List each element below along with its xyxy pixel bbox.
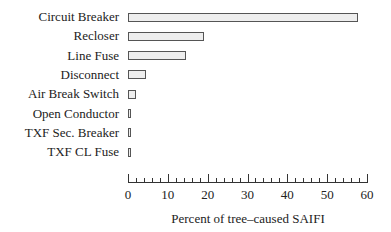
minor-tick — [271, 178, 272, 183]
minor-tick — [184, 178, 185, 183]
bar — [128, 90, 136, 99]
minor-tick — [295, 178, 296, 183]
minor-tick — [263, 178, 264, 183]
x-tick-label: 50 — [321, 187, 334, 203]
minor-tick — [359, 178, 360, 183]
category-label: Air Break Switch — [28, 86, 119, 102]
category-label: Disconnect — [61, 67, 119, 83]
minor-tick — [240, 178, 241, 183]
bar — [128, 51, 186, 60]
minor-tick — [200, 178, 201, 183]
minor-tick — [160, 178, 161, 183]
bar — [128, 109, 131, 118]
major-tick — [128, 174, 129, 183]
x-tick-label: 40 — [281, 187, 294, 203]
x-tick-label: 0 — [125, 187, 132, 203]
x-tick-label: 30 — [241, 187, 254, 203]
minor-tick — [319, 178, 320, 183]
bar — [128, 148, 131, 157]
category-label: Line Fuse — [67, 48, 119, 64]
category-label: Circuit Breaker — [39, 9, 120, 25]
major-tick — [248, 174, 249, 183]
bar — [128, 70, 146, 79]
major-tick — [168, 174, 169, 183]
minor-tick — [216, 178, 217, 183]
minor-tick — [144, 178, 145, 183]
minor-tick — [176, 178, 177, 183]
minor-tick — [224, 178, 225, 183]
category-label: TXF Sec. Breaker — [25, 125, 119, 141]
major-tick — [327, 174, 328, 183]
category-label: TXF CL Fuse — [47, 144, 119, 160]
major-tick — [287, 174, 288, 183]
minor-tick — [311, 178, 312, 183]
minor-tick — [335, 178, 336, 183]
bar — [128, 32, 204, 41]
minor-tick — [351, 178, 352, 183]
category-label: Recloser — [74, 28, 119, 44]
bar — [128, 13, 358, 22]
minor-tick — [279, 178, 280, 183]
minor-tick — [152, 178, 153, 183]
x-axis-label: Percent of tree–caused SAIFI — [171, 211, 324, 227]
minor-tick — [136, 178, 137, 183]
major-tick — [208, 174, 209, 183]
x-tick-label: 20 — [201, 187, 214, 203]
minor-tick — [192, 178, 193, 183]
minor-tick — [232, 178, 233, 183]
bar — [128, 128, 131, 137]
major-tick — [367, 174, 368, 183]
category-label: Open Conductor — [33, 106, 119, 122]
minor-tick — [343, 178, 344, 183]
x-tick-label: 60 — [361, 187, 374, 203]
minor-tick — [303, 178, 304, 183]
minor-tick — [255, 178, 256, 183]
x-tick-label: 10 — [161, 187, 174, 203]
